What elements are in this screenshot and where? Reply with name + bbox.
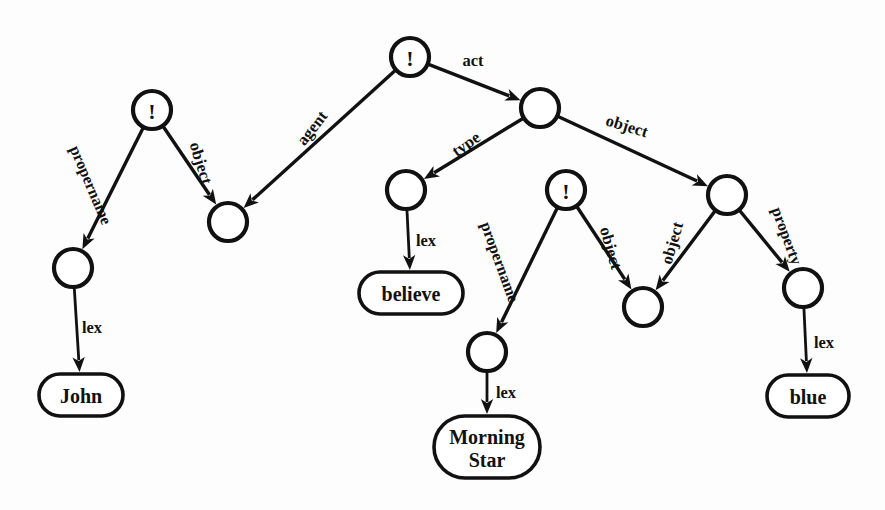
edge-label-object: object <box>596 225 626 272</box>
edge-label-type: type <box>448 128 484 161</box>
assertion-marker-label: ! <box>406 46 413 71</box>
edge-lex <box>403 210 415 270</box>
lex-box-text: Star <box>469 449 506 471</box>
semantic-network-graph: !!! JohnbelieveMorningStarblue actagentt… <box>0 0 885 510</box>
node-n_ms_prop[interactable]: ! <box>547 171 585 209</box>
lex-box-text: Morning <box>449 426 525 449</box>
edge-line <box>252 70 395 199</box>
node-n_blue_lex[interactable] <box>784 269 822 307</box>
edge-label-lex: lex <box>416 231 437 250</box>
node-n_shared_obj[interactable] <box>624 288 662 326</box>
node-n_agent[interactable] <box>209 203 247 241</box>
edge-label-property: property <box>768 205 805 268</box>
concept-circle <box>784 269 822 307</box>
assertion-marker-label: ! <box>562 179 569 204</box>
node-n_john_prop[interactable]: ! <box>133 91 171 129</box>
edge-label-propername: propername <box>477 220 523 305</box>
concept-circle <box>624 288 662 326</box>
edge-lex <box>800 308 812 373</box>
edge-label-act: act <box>462 51 484 70</box>
concept-circle <box>387 171 425 209</box>
concept-circle <box>209 203 247 241</box>
node-n_john_lex[interactable] <box>54 249 92 287</box>
lex-box-layer: JohnbelieveMorningStarblue <box>39 272 849 478</box>
edge-label-object: object <box>657 219 687 266</box>
node-n_ms_lex[interactable] <box>468 333 506 371</box>
edge-label-lex: lex <box>496 383 517 402</box>
edge-label-object: object <box>604 111 651 142</box>
concept-circle <box>521 89 559 127</box>
edge-act <box>429 64 521 100</box>
edge-label-lex: lex <box>814 333 835 352</box>
node-n_root[interactable]: ! <box>391 38 429 76</box>
lex-box-text: John <box>60 385 102 407</box>
edge-label-agent: agent <box>293 107 332 149</box>
assertion-marker-label: ! <box>148 99 155 124</box>
concept-circle <box>708 176 746 214</box>
arrow-head-icon <box>618 274 631 290</box>
concept-circle <box>54 249 92 287</box>
node-n_object[interactable] <box>708 176 746 214</box>
lex-box-blue[interactable]: blue <box>767 375 849 417</box>
node-n_type[interactable] <box>387 171 425 209</box>
diagram-canvas: !!! JohnbelieveMorningStarblue actagentt… <box>0 0 885 510</box>
edge-lex <box>481 372 493 414</box>
lex-box-morning-star[interactable]: MorningStar <box>434 416 540 478</box>
edge-line <box>74 288 79 360</box>
edge-agent <box>244 70 396 207</box>
edge-label-lex: lex <box>82 318 103 337</box>
lex-box-john[interactable]: John <box>39 374 123 416</box>
edge-layer <box>72 64 812 414</box>
node-layer: !!! <box>54 38 822 371</box>
arrow-head-icon <box>203 189 217 205</box>
edge-label-object: object <box>186 140 217 187</box>
edge-label-propername: propername <box>66 143 115 227</box>
edge-line <box>804 308 806 361</box>
concept-circle <box>468 333 506 371</box>
edge-label-layer: actagenttypeobjectpropernameobjectlexlex… <box>66 51 835 402</box>
lex-box-text: blue <box>790 386 827 408</box>
lex-box-believe[interactable]: believe <box>359 272 463 314</box>
node-n_act[interactable] <box>521 89 559 127</box>
edge-line <box>407 210 409 258</box>
lex-box-text: believe <box>382 283 441 305</box>
